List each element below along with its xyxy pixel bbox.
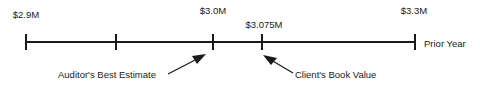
tick-label-3000000: $3.0M xyxy=(200,5,226,16)
number-line-figure: $2.9M $3.0M $3.075M $3.3M Prior Year Aud… xyxy=(0,0,480,90)
annotation-auditors-best-estimate: Auditor's Best Estimate xyxy=(58,69,156,80)
tick-label-3075000: $3.075M xyxy=(246,19,283,30)
annotation-clients-book-value: Client's Book Value xyxy=(295,69,376,80)
tick-label-2900000: $2.9M xyxy=(13,9,39,20)
clients-book-value-leader xyxy=(271,60,293,73)
clients-book-value-arrowhead xyxy=(263,55,277,65)
prior-year-caption: Prior Year xyxy=(424,38,466,49)
auditors-best-estimate-arrowhead xyxy=(192,54,206,64)
tick-label-3300000: $3.3M xyxy=(401,5,427,16)
auditors-best-estimate-leader xyxy=(168,58,199,74)
